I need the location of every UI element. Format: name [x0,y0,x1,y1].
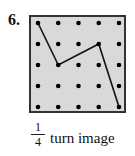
peg-dot [96,84,101,89]
peg-dot [36,84,41,89]
peg-dot [36,105,41,110]
problem-number: 6. [8,12,20,28]
fraction-denominator: 4 [31,136,45,148]
peg-dot [36,21,41,26]
caption-text: turn image [50,131,115,146]
peg-dot [56,63,61,68]
peg-dot [117,105,122,110]
peg-dot [76,105,81,110]
peg-dot [96,63,101,68]
peg-dot [56,42,61,47]
fraction-numerator: 1 [31,121,45,133]
peg-dot [117,21,122,26]
peg-dot [117,84,122,89]
peg-dot [36,42,41,47]
peg-dot [117,42,122,47]
peg-dot [76,42,81,47]
peg-dot [36,63,41,68]
peg-dot [76,21,81,26]
peg-dot [96,21,101,26]
geoboard [29,15,126,113]
peg-dot [117,63,122,68]
peg-dot [56,105,61,110]
geoboard-figure [29,15,126,113]
peg-dot [96,105,101,110]
peg-dot [56,84,61,89]
peg-dot [96,42,101,47]
peg-dot [76,84,81,89]
peg-dot [76,63,81,68]
peg-dot [56,21,61,26]
fraction: 1 4 [31,121,45,148]
